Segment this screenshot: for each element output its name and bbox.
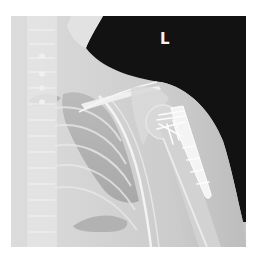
spine bbox=[27, 16, 57, 247]
side-marker-label: L bbox=[160, 32, 170, 47]
xray-image: L bbox=[11, 16, 246, 247]
xray-drawing bbox=[11, 16, 246, 247]
